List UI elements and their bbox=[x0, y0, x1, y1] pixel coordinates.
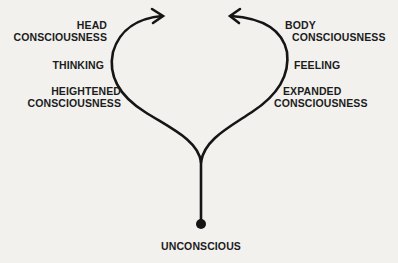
label-line: HEAD bbox=[14, 19, 107, 31]
label-line: FEELING bbox=[294, 59, 340, 71]
label-head-consciousness: HEAD CONSCIOUSNESS bbox=[14, 19, 107, 43]
root-dot bbox=[196, 219, 206, 229]
label-line: CONSCIOUSNESS bbox=[28, 97, 121, 109]
label-thinking: THINKING bbox=[52, 59, 104, 71]
label-feeling: FEELING bbox=[294, 59, 340, 71]
label-unconscious: UNCONSCIOUS bbox=[151, 240, 251, 252]
label-line: UNCONSCIOUS bbox=[151, 240, 251, 252]
left-branch-curve bbox=[112, 16, 201, 162]
label-line: THINKING bbox=[52, 59, 104, 71]
label-expanded-consciousness: EXPANDED CONSCIOUSNESS bbox=[274, 85, 367, 109]
label-heightened-consciousness: HEIGHTENED CONSCIOUSNESS bbox=[28, 85, 121, 109]
label-line: CONSCIOUSNESS bbox=[285, 31, 385, 43]
label-body-consciousness: BODY CONSCIOUSNESS bbox=[285, 19, 385, 43]
label-line: HEIGHTENED bbox=[28, 85, 121, 97]
label-line: BODY bbox=[285, 19, 385, 31]
label-line: CONSCIOUSNESS bbox=[14, 31, 107, 43]
label-line: CONSCIOUSNESS bbox=[274, 97, 367, 109]
label-line: EXPANDED bbox=[274, 85, 367, 97]
